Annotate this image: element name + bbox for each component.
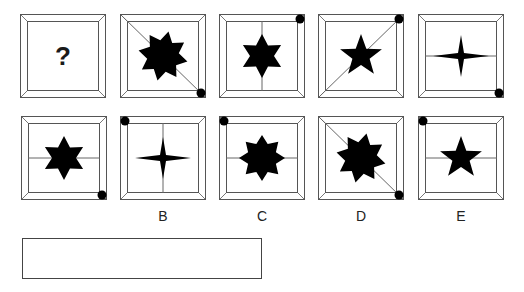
option-cell-C[interactable]	[219, 116, 305, 200]
corner-dot-icon	[495, 89, 504, 98]
four-point-star-icon	[135, 137, 191, 179]
option-cell-B[interactable]	[120, 116, 206, 200]
question-mark: ?	[20, 14, 106, 98]
four-point-star-icon	[433, 35, 489, 77]
eight-point-star-icon	[239, 135, 285, 181]
corner-dot-icon	[220, 117, 229, 126]
option-label-C: C	[219, 208, 305, 224]
question-cell-q5	[418, 14, 504, 98]
question-cell-q1: ?	[20, 14, 106, 98]
six-point-star-icon	[243, 34, 281, 78]
question-cell-q2	[120, 14, 206, 98]
corner-dot-icon	[197, 89, 206, 98]
question-cell-q3	[219, 14, 305, 98]
five-point-star-icon	[340, 34, 382, 74]
corner-dot-icon	[296, 15, 305, 24]
corner-dot-icon	[419, 117, 428, 126]
option-cell-E[interactable]	[418, 116, 504, 200]
five-point-star-icon	[440, 136, 482, 176]
option-cell-D[interactable]	[318, 116, 404, 200]
corner-dot-icon	[395, 191, 404, 200]
corner-dot-icon	[121, 117, 130, 126]
answer-box[interactable]	[22, 238, 262, 279]
option-label-E: E	[418, 208, 504, 224]
question-cell-q4	[318, 14, 404, 98]
option-label-B: B	[120, 208, 206, 224]
corner-dot-icon	[395, 15, 404, 24]
option-cell-A[interactable]	[21, 116, 107, 200]
option-label-D: D	[318, 208, 404, 224]
corner-dot-icon	[98, 191, 107, 200]
